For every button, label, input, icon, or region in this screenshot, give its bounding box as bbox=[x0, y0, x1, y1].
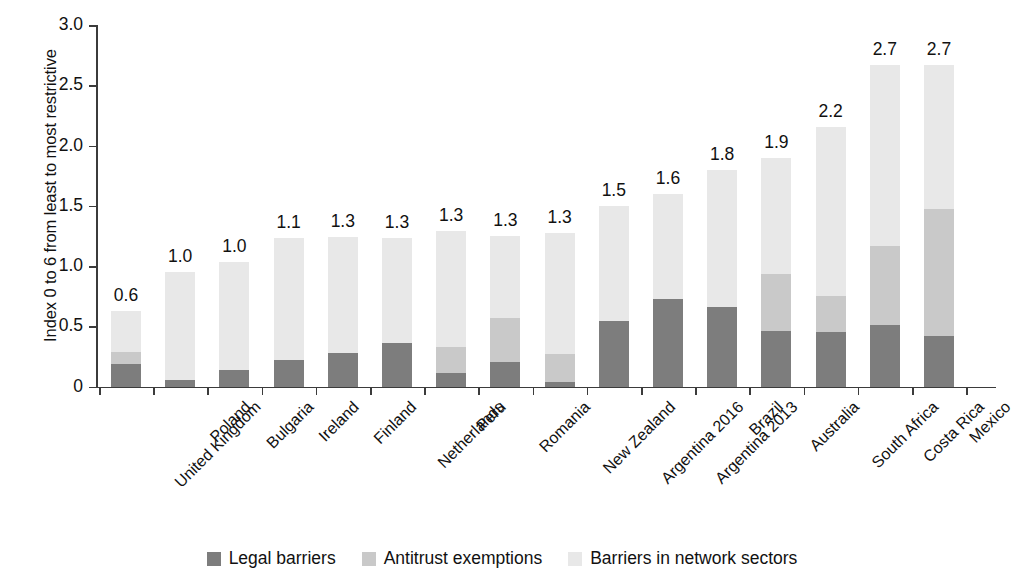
bar-stack[interactable] bbox=[436, 231, 466, 386]
x-axis-category-labels: United KingdomPolandBulgariaIrelandFinla… bbox=[96, 398, 996, 528]
bar-stack[interactable] bbox=[274, 238, 304, 386]
bar-segment-legal-barriers[interactable] bbox=[816, 332, 846, 386]
bar-stack[interactable] bbox=[653, 194, 683, 387]
bar-segment-legal-barriers[interactable] bbox=[165, 380, 195, 386]
x-tick-mark bbox=[99, 387, 101, 395]
y-tick-mark bbox=[89, 25, 97, 27]
bar-segment-legal-barriers[interactable] bbox=[111, 364, 141, 387]
bar-segment-barriers-in-network-sectors[interactable] bbox=[219, 262, 249, 369]
y-tick-label: 0 bbox=[73, 376, 83, 397]
bar-segment-barriers-in-network-sectors[interactable] bbox=[870, 65, 900, 246]
x-category-label: Finland bbox=[370, 398, 420, 448]
legend-swatch-icon bbox=[568, 552, 582, 566]
bar-segment-legal-barriers[interactable] bbox=[761, 331, 791, 386]
y-tick-label: 0.5 bbox=[59, 315, 83, 336]
bar-value-label: 1.9 bbox=[741, 132, 811, 153]
bar-value-label: 0.6 bbox=[91, 285, 161, 306]
bar-value-label: 1.3 bbox=[525, 207, 595, 228]
bar-stack[interactable] bbox=[328, 237, 358, 386]
bar-segment-legal-barriers[interactable] bbox=[653, 299, 683, 387]
y-tick-label: 2.5 bbox=[59, 74, 83, 95]
bar-segment-legal-barriers[interactable] bbox=[328, 353, 358, 387]
x-tick-mark bbox=[587, 387, 589, 395]
bar-segment-barriers-in-network-sectors[interactable] bbox=[382, 238, 412, 343]
bar-segment-legal-barriers[interactable] bbox=[599, 321, 629, 386]
bar-segment-barriers-in-network-sectors[interactable] bbox=[436, 231, 466, 347]
bar-segment-legal-barriers[interactable] bbox=[870, 325, 900, 386]
y-tick-mark bbox=[89, 326, 97, 328]
x-axis-line bbox=[96, 387, 996, 389]
bar-stack[interactable] bbox=[599, 206, 629, 387]
bar-segment-barriers-in-network-sectors[interactable] bbox=[111, 311, 141, 352]
bar-stack[interactable] bbox=[382, 238, 412, 386]
x-tick-mark bbox=[370, 387, 372, 395]
bar-segment-legal-barriers[interactable] bbox=[924, 336, 954, 387]
bar-stack[interactable] bbox=[111, 311, 141, 387]
bar-segment-barriers-in-network-sectors[interactable] bbox=[165, 272, 195, 380]
legend-item[interactable]: Antitrust exemptions bbox=[362, 548, 543, 569]
x-tick-mark bbox=[695, 387, 697, 395]
bar-segment-legal-barriers[interactable] bbox=[274, 360, 304, 387]
x-tick-mark bbox=[153, 387, 155, 395]
bar-value-label: 2.2 bbox=[796, 101, 866, 122]
bar-segment-legal-barriers[interactable] bbox=[490, 362, 520, 386]
chart-legend: Legal barriersAntitrust exemptionsBarrie… bbox=[0, 548, 1004, 569]
plot-area: 00.51.01.52.02.53.0 0.61.01.01.11.31.31.… bbox=[96, 18, 996, 388]
bar-segment-antitrust-exemptions[interactable] bbox=[436, 347, 466, 374]
bar-segment-barriers-in-network-sectors[interactable] bbox=[707, 170, 737, 307]
x-tick-mark bbox=[858, 387, 860, 395]
legend-item[interactable]: Legal barriers bbox=[207, 548, 336, 569]
bar-segment-legal-barriers[interactable] bbox=[707, 307, 737, 387]
bar-stack[interactable] bbox=[219, 262, 249, 386]
legend-label: Barriers in network sectors bbox=[590, 548, 797, 569]
bar-segment-antitrust-exemptions[interactable] bbox=[545, 354, 575, 382]
x-category-label: Romania bbox=[536, 398, 594, 456]
bar-segment-barriers-in-network-sectors[interactable] bbox=[545, 233, 575, 354]
bar-stack[interactable] bbox=[490, 236, 520, 387]
bar-stack[interactable] bbox=[545, 233, 575, 386]
bar-segment-legal-barriers[interactable] bbox=[382, 343, 412, 386]
bar-segment-barriers-in-network-sectors[interactable] bbox=[490, 236, 520, 318]
x-category-label: Ireland bbox=[315, 398, 362, 445]
bar-segment-legal-barriers[interactable] bbox=[219, 370, 249, 387]
bar-segment-barriers-in-network-sectors[interactable] bbox=[328, 237, 358, 353]
bar-segment-barriers-in-network-sectors[interactable] bbox=[816, 127, 846, 296]
y-tick-label: 2.0 bbox=[59, 135, 83, 156]
bar-stack[interactable] bbox=[924, 65, 954, 387]
x-tick-mark bbox=[533, 387, 535, 395]
bar-segment-barriers-in-network-sectors[interactable] bbox=[274, 238, 304, 360]
bar-segment-barriers-in-network-sectors[interactable] bbox=[599, 206, 629, 322]
legend-swatch-icon bbox=[362, 552, 376, 566]
x-tick-mark bbox=[424, 387, 426, 395]
bar-stack[interactable] bbox=[816, 127, 846, 386]
bar-segment-legal-barriers[interactable] bbox=[436, 373, 466, 386]
bar-value-label: 2.7 bbox=[904, 39, 974, 60]
x-tick-mark bbox=[478, 387, 480, 395]
x-tick-mark bbox=[641, 387, 643, 395]
bar-segment-barriers-in-network-sectors[interactable] bbox=[924, 65, 954, 210]
bar-segment-barriers-in-network-sectors[interactable] bbox=[653, 194, 683, 299]
bar-segment-antitrust-exemptions[interactable] bbox=[924, 209, 954, 336]
bar-stack[interactable] bbox=[870, 65, 900, 387]
bar-segment-barriers-in-network-sectors[interactable] bbox=[761, 158, 791, 275]
bar-value-label: 1.6 bbox=[633, 168, 703, 189]
y-tick-mark bbox=[89, 85, 97, 87]
y-tick-label: 1.5 bbox=[59, 195, 83, 216]
y-tick-mark bbox=[89, 146, 97, 148]
bar-segment-antitrust-exemptions[interactable] bbox=[761, 274, 791, 331]
bar-segment-antitrust-exemptions[interactable] bbox=[816, 296, 846, 332]
bar-stack[interactable] bbox=[761, 158, 791, 387]
x-category-label: Bulgaria bbox=[264, 398, 318, 452]
x-tick-mark bbox=[262, 387, 264, 395]
x-tick-mark bbox=[749, 387, 751, 395]
bar-segment-antitrust-exemptions[interactable] bbox=[870, 246, 900, 326]
legend-item[interactable]: Barriers in network sectors bbox=[568, 548, 797, 569]
bar-segment-legal-barriers[interactable] bbox=[545, 382, 575, 387]
y-tick-mark bbox=[89, 206, 97, 208]
x-tick-mark bbox=[912, 387, 914, 395]
bar-stack[interactable] bbox=[165, 272, 195, 386]
bar-segment-antitrust-exemptions[interactable] bbox=[490, 318, 520, 363]
bar-segment-antitrust-exemptions[interactable] bbox=[111, 352, 141, 364]
bar-stack[interactable] bbox=[707, 170, 737, 387]
